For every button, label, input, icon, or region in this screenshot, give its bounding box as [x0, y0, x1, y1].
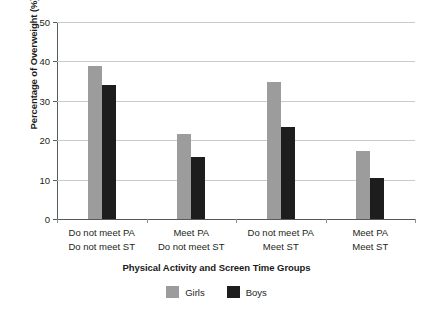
bar-boys-group-4	[370, 178, 384, 219]
legend-item-girls: Girls	[166, 286, 205, 298]
category-label-line1: Do not meet PA	[69, 227, 135, 238]
category-label-line1: Meet PA	[352, 227, 388, 238]
legend-label-boys: Boys	[246, 287, 267, 298]
x-axis-tick	[57, 219, 58, 223]
y-axis-tick-label: 30	[39, 95, 50, 106]
y-axis-title: Percentage of Overweight (%)	[28, 0, 39, 159]
y-axis-tick-label: 0	[45, 214, 50, 225]
x-axis-category-label: Meet PADo not meet ST	[147, 226, 237, 253]
category-label-line2: Meet ST	[236, 240, 326, 254]
bar-boys-group-2	[191, 157, 205, 219]
category-label-line2: Do not meet ST	[147, 240, 237, 254]
bar-girls-group-3	[267, 82, 281, 219]
bar-boys-group-1	[102, 85, 116, 219]
legend-item-boys: Boys	[227, 286, 267, 298]
gridline	[57, 61, 415, 62]
bar-girls-group-4	[356, 151, 370, 219]
x-axis-tick	[326, 219, 327, 223]
y-axis-tick-label: 20	[39, 135, 50, 146]
y-axis-tick	[53, 180, 57, 181]
x-axis-tick	[147, 219, 148, 223]
y-axis-tick	[53, 101, 57, 102]
legend-label-girls: Girls	[185, 287, 205, 298]
y-axis-tick	[53, 61, 57, 62]
x-axis-category-label: Do not meet PADo not meet ST	[57, 226, 147, 253]
bar-boys-group-3	[281, 127, 295, 219]
category-label-line2: Do not meet ST	[57, 240, 147, 254]
bar-girls-group-2	[177, 134, 191, 219]
y-axis-tick	[53, 22, 57, 23]
x-axis-title: Physical Activity and Screen Time Groups	[0, 262, 433, 273]
category-label-line2: Meet ST	[326, 240, 416, 254]
chart-legend: GirlsBoys	[0, 286, 433, 298]
category-label-line1: Do not meet PA	[248, 227, 314, 238]
y-axis-tick-label: 50	[39, 17, 50, 28]
legend-swatch-boys	[227, 286, 240, 298]
y-axis-tick-label: 10	[39, 174, 50, 185]
gridline	[57, 22, 415, 23]
x-axis-category-label: Do not meet PAMeet ST	[236, 226, 326, 253]
x-axis-tick	[415, 219, 416, 223]
x-axis-tick	[236, 219, 237, 223]
y-axis-line	[57, 22, 58, 219]
plot-area: 01020304050 Do not meet PADo not meet ST…	[57, 22, 415, 219]
x-axis-category-label: Meet PAMeet ST	[326, 226, 416, 253]
legend-swatch-girls	[166, 286, 179, 298]
bar-chart-figure: Percentage of Overweight (%) 01020304050…	[0, 0, 433, 315]
category-label-line1: Meet PA	[173, 227, 209, 238]
y-axis-tick	[53, 140, 57, 141]
y-axis-tick-label: 40	[39, 56, 50, 67]
bar-girls-group-1	[88, 66, 102, 219]
